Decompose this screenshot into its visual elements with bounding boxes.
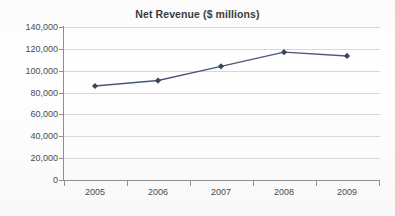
data-point-2008 bbox=[281, 49, 287, 55]
data-point-2007 bbox=[218, 63, 224, 69]
data-point-2006 bbox=[155, 77, 161, 83]
data-point-2009 bbox=[344, 53, 350, 59]
chart-container: Net Revenue ($ millions) 140,000 120,000… bbox=[0, 0, 395, 216]
data-point-2005 bbox=[92, 83, 98, 89]
data-series-layer bbox=[0, 0, 395, 216]
